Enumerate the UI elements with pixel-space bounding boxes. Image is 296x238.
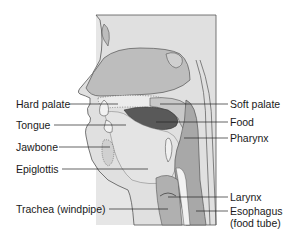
- label-epiglottis: Epiglottis: [16, 163, 59, 175]
- label-tongue: Tongue: [16, 119, 50, 131]
- label-jawbone: Jawbone: [16, 141, 58, 153]
- label-esophagus: Esophagus: [230, 205, 283, 217]
- label-larynx: Larynx: [230, 191, 262, 203]
- label-soft-palate: Soft palate: [230, 98, 280, 110]
- label-food: Food: [230, 116, 254, 128]
- label-hard-palate: Hard palate: [16, 98, 70, 110]
- label-trachea: Trachea (windpipe): [16, 203, 106, 215]
- label-pharynx: Pharynx: [230, 132, 269, 144]
- label-esophagus-subtitle: (food tube): [230, 217, 281, 229]
